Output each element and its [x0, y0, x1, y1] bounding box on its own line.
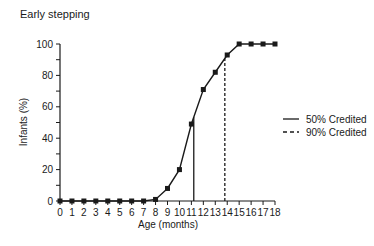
data-point — [273, 42, 278, 47]
data-point — [261, 42, 266, 47]
x-tick-label: 6 — [129, 207, 135, 218]
x-tick-label: 14 — [222, 207, 234, 218]
y-tick-label: 0 — [47, 196, 53, 207]
data-point — [237, 42, 242, 47]
x-tick-label: 15 — [234, 207, 246, 218]
x-tick-label: 16 — [246, 207, 258, 218]
x-tick-label: 10 — [174, 207, 186, 218]
data-point — [225, 52, 230, 57]
x-tick-label: 0 — [57, 207, 63, 218]
data-point — [141, 199, 146, 204]
data-point — [129, 199, 134, 204]
x-tick-label: 5 — [117, 207, 123, 218]
x-tick-label: 7 — [141, 207, 147, 218]
y-tick-label: 40 — [42, 133, 54, 144]
data-point — [69, 199, 74, 204]
x-tick-label: 2 — [81, 207, 87, 218]
data-series — [58, 42, 278, 204]
data-point — [81, 199, 86, 204]
x-tick-label: 12 — [198, 207, 210, 218]
data-point — [189, 122, 194, 127]
x-tick-label: 11 — [186, 207, 197, 218]
legend-label: 50% Credited — [306, 114, 367, 125]
data-point — [93, 199, 98, 204]
data-point — [165, 186, 170, 191]
axes: 0204060801000123456789101112131415161718 — [36, 39, 281, 219]
x-tick-label: 8 — [153, 207, 159, 218]
legend: 50% Credited90% Credited — [283, 114, 367, 138]
x-axis-label: Age (months) — [138, 219, 198, 230]
series-line — [60, 44, 275, 201]
x-tick-label: 1 — [69, 207, 75, 218]
x-tick-label: 3 — [93, 207, 99, 218]
data-point — [201, 87, 206, 92]
y-tick-label: 20 — [42, 164, 54, 175]
y-tick-label: 60 — [42, 101, 54, 112]
data-point — [105, 199, 110, 204]
y-tick-label: 80 — [42, 70, 54, 81]
y-tick-label: 100 — [36, 39, 53, 50]
data-point — [117, 199, 122, 204]
x-tick-label: 18 — [269, 207, 281, 218]
line-chart: 0204060801000123456789101112131415161718… — [0, 0, 374, 246]
x-tick-label: 9 — [165, 207, 171, 218]
x-tick-label: 4 — [105, 207, 111, 218]
y-axis-label: Infants (%) — [18, 98, 29, 146]
data-point — [153, 197, 158, 202]
data-point — [213, 70, 218, 75]
x-tick-label: 13 — [210, 207, 222, 218]
data-point — [58, 199, 63, 204]
x-tick-label: 17 — [257, 207, 269, 218]
data-point — [249, 42, 254, 47]
data-point — [177, 167, 182, 172]
legend-label: 90% Credited — [306, 127, 367, 138]
